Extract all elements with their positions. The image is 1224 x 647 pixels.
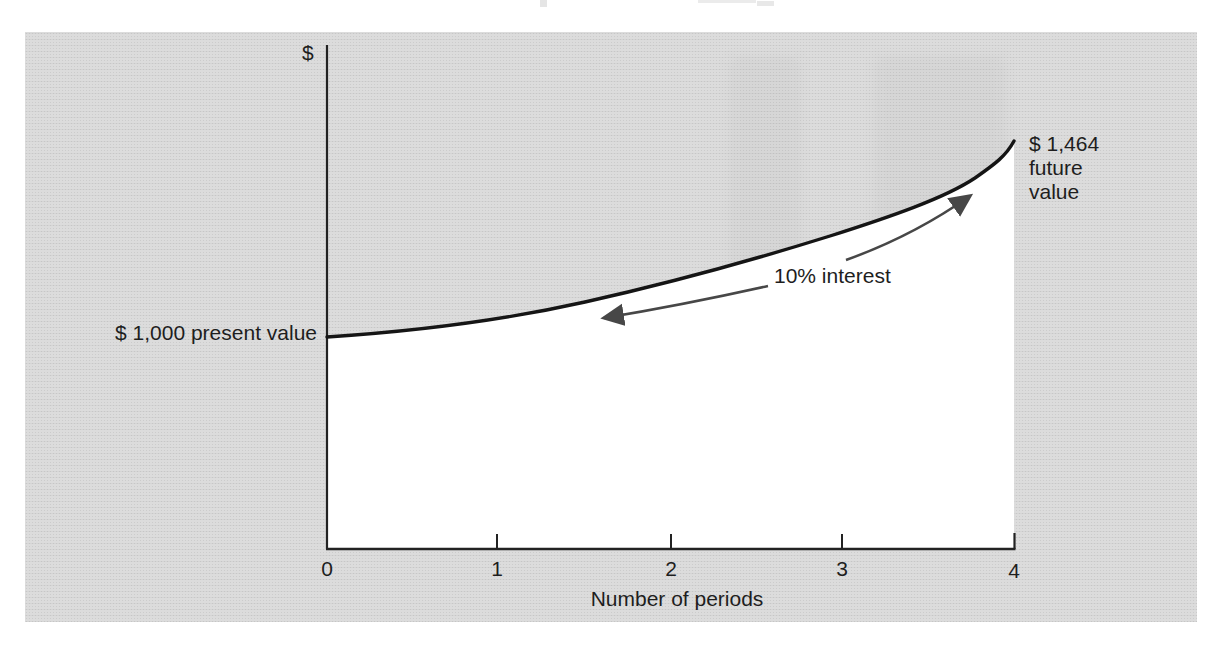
under-curve-area — [327, 141, 1014, 549]
present-value-label: $ 1,000 present value — [100, 321, 317, 345]
interest-rate-label: 10% interest — [774, 264, 891, 288]
future-value-word-1: future — [1029, 156, 1099, 180]
x-tick-label-1: 1 — [477, 557, 517, 581]
future-value-amount: $ 1,464 — [1029, 132, 1099, 156]
future-value-word-2: value — [1029, 180, 1099, 204]
figure-canvas: $ $ 1,000 present value $ 1,464 future v… — [0, 0, 1224, 647]
x-tick-label-4: 4 — [994, 559, 1034, 583]
future-value-label: $ 1,464 future value — [1029, 132, 1099, 204]
x-tick-label-3: 3 — [822, 557, 862, 581]
x-tick-label-0: 0 — [307, 557, 347, 581]
x-axis-title: Number of periods — [527, 587, 827, 611]
y-axis-label: $ — [302, 41, 314, 65]
x-tick-label-2: 2 — [651, 557, 691, 581]
